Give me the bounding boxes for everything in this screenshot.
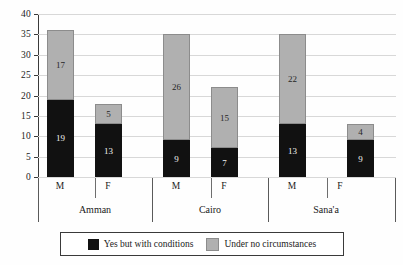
- bar-amman-male: 17 19: [47, 30, 74, 177]
- bar-value-label: 5: [96, 109, 121, 118]
- bar-segment-under-no-circumstances: 17: [47, 30, 74, 99]
- chart-figure: 0510152025303540 17 19 5 13 26 9: [0, 0, 403, 265]
- group-label-sanaa: Sana'a: [271, 204, 381, 215]
- y-tick-mark: [34, 55, 38, 56]
- bar-segment-yes-with-conditions: 19: [47, 100, 74, 177]
- bar-value-label: 4: [348, 128, 373, 137]
- bar-cairo-female: 15 7: [211, 87, 238, 177]
- y-tick-label: 15: [21, 111, 31, 121]
- bar-sanaa-male: 22 13: [279, 34, 306, 177]
- tick-label-sanaa-male: M: [266, 181, 318, 191]
- bar-segment-yes-with-conditions: 9: [347, 140, 374, 177]
- bar-segment-yes-with-conditions: 13: [279, 124, 306, 177]
- y-tick-label: 25: [21, 70, 31, 80]
- bar-value-label: 9: [347, 154, 374, 163]
- legend-label: Yes but with conditions: [104, 239, 194, 249]
- bar-segment-under-no-circumstances: 22: [279, 34, 306, 124]
- bar-sanaa-female: 4 9: [347, 124, 374, 177]
- chart-legend: Yes but with conditions Under no circums…: [60, 232, 344, 256]
- bar-value-label: 19: [47, 134, 74, 143]
- legend-item-yes-with-conditions: Yes but with conditions: [88, 239, 194, 250]
- category-axis: M F M F M F Amman Cairo Sana'a: [38, 178, 396, 222]
- y-tick-mark: [34, 96, 38, 97]
- group-separator: [395, 178, 396, 222]
- bar-segment-yes-with-conditions: 7: [211, 148, 238, 177]
- gridline: [38, 14, 396, 15]
- y-tick-label: 35: [21, 29, 31, 39]
- bar-segment-under-no-circumstances: 26: [163, 34, 190, 140]
- bar-amman-female: 5 13: [95, 104, 122, 177]
- y-tick-mark: [34, 34, 38, 35]
- y-tick-label: 10: [21, 131, 31, 141]
- y-tick-mark: [34, 116, 38, 117]
- bar-value-label: 15: [212, 113, 237, 122]
- y-tick-label: 20: [21, 91, 31, 101]
- bar-value-label: 13: [95, 146, 122, 155]
- bar-cairo-male: 26 9: [163, 34, 190, 177]
- legend-swatch-icon: [88, 239, 99, 250]
- y-tick-label: 40: [21, 9, 31, 19]
- bar-segment-under-no-circumstances: 4: [347, 124, 374, 140]
- y-tick-mark: [34, 75, 38, 76]
- tick-label-cairo-female: F: [198, 181, 250, 191]
- gridline: [38, 55, 396, 56]
- bar-segment-yes-with-conditions: 9: [163, 140, 190, 177]
- y-tick-label: 30: [21, 50, 31, 60]
- gridline: [38, 75, 396, 76]
- bar-segment-yes-with-conditions: 13: [95, 124, 122, 177]
- y-tick-mark: [34, 136, 38, 137]
- plot-area: 0510152025303540 17 19 5 13 26 9: [38, 14, 396, 177]
- bar-value-label: 17: [48, 60, 73, 69]
- tick-label-sanaa-female: F: [314, 181, 366, 191]
- bar-segment-under-no-circumstances: 5: [95, 104, 122, 124]
- tick-label-cairo-male: M: [150, 181, 202, 191]
- bar-value-label: 9: [163, 154, 190, 163]
- gridline: [38, 34, 396, 35]
- tick-label-amman-male: M: [34, 181, 86, 191]
- bar-value-label: 22: [280, 75, 305, 84]
- bar-value-label: 26: [164, 83, 189, 92]
- y-tick-mark: [34, 14, 38, 15]
- tick-label-amman-female: F: [82, 181, 134, 191]
- bar-value-label: 7: [211, 158, 238, 167]
- legend-label: Under no circumstances: [224, 239, 316, 249]
- y-tick-label: 5: [26, 152, 31, 162]
- bar-value-label: 13: [279, 146, 306, 155]
- y-tick-label: 0: [26, 172, 31, 182]
- y-tick-mark: [34, 157, 38, 158]
- group-label-amman: Amman: [40, 204, 150, 215]
- legend-swatch-icon: [206, 238, 219, 251]
- legend-item-under-no-circumstances: Under no circumstances: [206, 238, 316, 251]
- bar-segment-under-no-circumstances: 15: [211, 87, 238, 148]
- group-label-cairo: Cairo: [155, 204, 265, 215]
